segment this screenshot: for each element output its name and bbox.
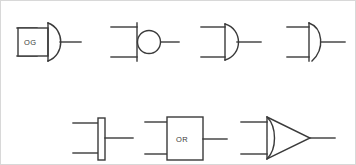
symbol-3-d-shape-gate-small[interactable]	[199, 17, 267, 67]
symbol-2-vertical-bar-with-circle-gate[interactable]	[109, 17, 181, 67]
symbol-5-narrow-vertical-bar-gate[interactable]	[71, 115, 141, 163]
symbol-4-d-shape-gate-pointed[interactable]	[285, 15, 351, 67]
symbol-6-label: OR	[176, 135, 188, 144]
symbol-7-triangle-body	[267, 117, 310, 159]
symbol-7-triangle-gate-curved-back[interactable]	[239, 113, 339, 165]
symbol-1-right-arc	[48, 23, 61, 61]
symbol-1-labeled-box-d-shape-gate[interactable]: OG	[13, 17, 85, 67]
symbol-2-circle-bubble	[138, 31, 161, 54]
symbol-5-body-bar	[98, 118, 105, 160]
symbol-sheet-canvas: OG	[0, 0, 356, 165]
symbol-6-labeled-rectangle-gate[interactable]: OR	[143, 113, 233, 165]
symbol-1-label: OG	[24, 38, 36, 47]
symbol-4-right-arc	[309, 23, 321, 61]
symbol-7-curved-back-edge	[267, 117, 275, 159]
